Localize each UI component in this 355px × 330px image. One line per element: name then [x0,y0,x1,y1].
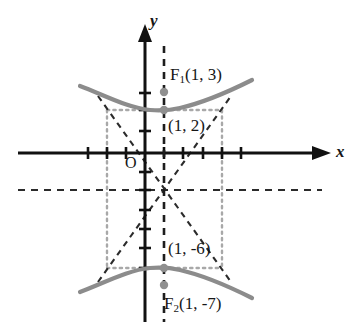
x-axis-label: x [336,143,345,160]
focus-top-point [160,88,168,96]
focus-top-label: F1(1, 3) [170,66,222,85]
vertex-top-label: (1, 2) [168,117,205,134]
origin-label: O [125,155,137,171]
hyperbola-figure [0,0,355,330]
focus-top-coords: (1, 3) [185,65,222,84]
focus-bottom-coords: (1, -7) [179,294,221,313]
focus-bottom-point [160,281,168,289]
vertex-top-point [160,106,168,114]
focus-bottom-label: F2(1, -7) [164,295,221,314]
x-axis [18,146,331,160]
vertex-bottom-point [160,264,168,272]
vertex-bottom-label: (1, -6) [168,240,210,257]
y-axis-label: y [150,12,158,29]
y-axis [138,24,152,322]
x-axis-arrowhead [312,146,331,160]
